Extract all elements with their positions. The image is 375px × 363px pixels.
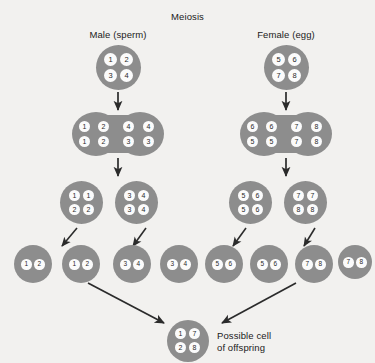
chromosome: 2: [120, 53, 133, 66]
chromosome: 8: [315, 259, 326, 270]
cell-male-duplicated: 1 2 4 4 1 2 3 3: [72, 112, 164, 156]
chromosome: 5: [272, 53, 285, 66]
cell-female-parent: 5 6 7 8: [264, 45, 309, 90]
chromosome: 8: [307, 204, 318, 215]
arrow-male-cellB-to-gametes: [133, 228, 146, 246]
chromosome: 7: [302, 259, 313, 270]
chromosome: 5: [247, 136, 258, 147]
cell-female-duplicated: 6 6 7 8 5 5 7 8: [240, 112, 332, 156]
arrow-egg-to-offspring: [222, 283, 296, 323]
chromosome: 5: [238, 190, 249, 201]
chromosome: 4: [138, 204, 149, 215]
chromosome: 1: [83, 190, 94, 201]
chromosome: 7: [189, 328, 200, 339]
page-title: Meiosis: [0, 11, 375, 22]
arrow-male-cellA-to-gametes: [62, 228, 77, 246]
chromosome: 2: [175, 342, 186, 353]
gamete-male-4: 3 4: [160, 245, 198, 283]
chromosome: 2: [69, 204, 80, 215]
chromosome: 2: [98, 121, 109, 132]
chromosome: 7: [307, 190, 318, 201]
chromosome: 4: [180, 259, 191, 270]
chromosome: 7: [343, 257, 354, 268]
arrow-female-cellB-to-gametes: [304, 228, 315, 246]
chromosome: 1: [175, 328, 186, 339]
chromosome: 2: [98, 136, 109, 147]
chromosome: 4: [120, 69, 133, 82]
chromosome: 6: [288, 53, 301, 66]
gamete-female-3: 7 8: [295, 245, 333, 283]
chromosome: 2: [83, 204, 94, 215]
chromosome: 4: [143, 121, 154, 132]
cell-male-division-b: 3 4 3 4: [115, 181, 158, 224]
chromosome: 1: [104, 53, 117, 66]
chromosome: 6: [225, 259, 236, 270]
female-column-label: Female (egg): [226, 29, 346, 40]
cell-female-division-a: 5 6 5 6: [229, 181, 272, 224]
cell-offspring: 1 7 2 8: [167, 320, 209, 362]
gamete-female-1: 5 6: [205, 245, 243, 283]
chromosome: 6: [266, 121, 277, 132]
chromosome: 1: [69, 259, 80, 270]
chromosome: 8: [311, 136, 322, 147]
chromosome: 5: [266, 136, 277, 147]
chromosome: 6: [252, 190, 263, 201]
chromosome: 8: [189, 342, 200, 353]
meiosis-diagram: Meiosis Male (sperm) Female (egg) 1 2 3 …: [0, 0, 375, 363]
gamete-female-2: 5 6: [250, 245, 288, 283]
chromosome: 6: [270, 259, 281, 270]
chromosome: 2: [34, 259, 45, 270]
chromosome: 3: [143, 136, 154, 147]
chromosome: 3: [124, 190, 135, 201]
chromosome: 5: [257, 259, 268, 270]
chromosome: 7: [291, 121, 302, 132]
chromosome: 1: [21, 259, 32, 270]
cell-male-division-a: 1 1 2 2: [60, 181, 103, 224]
chromosome: 3: [167, 259, 178, 270]
chromosome: 4: [123, 121, 134, 132]
gamete-male-2: 1 2: [62, 245, 100, 283]
chromosome: 4: [138, 190, 149, 201]
chromosome: 6: [247, 121, 258, 132]
chromosome: 5: [238, 204, 249, 215]
cell-female-division-b: 7 7 8 8: [284, 181, 327, 224]
arrow-sperm-to-offspring: [88, 283, 164, 323]
chromosome: 4: [133, 259, 144, 270]
cell-male-parent: 1 2 3 4: [96, 45, 141, 90]
chromosome: 7: [272, 69, 285, 82]
chromosome: 8: [311, 121, 322, 132]
chromosome: 3: [104, 69, 117, 82]
chromosome: 7: [291, 136, 302, 147]
arrow-female-cellA-to-gametes: [233, 228, 246, 246]
gamete-male-3: 3 4: [113, 245, 151, 283]
chromosome: 3: [124, 204, 135, 215]
male-column-label: Male (sperm): [58, 29, 178, 40]
chromosome: 8: [293, 204, 304, 215]
gamete-male-1: 1 2: [14, 245, 52, 283]
offspring-caption-line2: of offspring: [217, 342, 265, 354]
chromosome: 2: [82, 259, 93, 270]
chromosome: 1: [79, 136, 90, 147]
chromosome: 1: [79, 121, 90, 132]
chromosome: 7: [293, 190, 304, 201]
chromosome: 6: [252, 204, 263, 215]
offspring-caption-line1: Possible cell: [217, 330, 271, 342]
chromosome: 8: [288, 69, 301, 82]
chromosome: 3: [123, 136, 134, 147]
gamete-female-4: 7 8: [338, 245, 372, 279]
chromosome: 1: [69, 190, 80, 201]
chromosome: 8: [356, 257, 367, 268]
arrow-layer: [0, 0, 375, 363]
chromosome: 3: [120, 259, 131, 270]
chromosome: 5: [212, 259, 223, 270]
